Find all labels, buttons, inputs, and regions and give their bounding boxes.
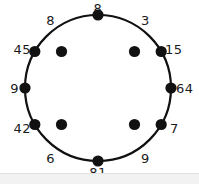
circle-node-dot[interactable] bbox=[129, 46, 140, 57]
circle-node-dot[interactable] bbox=[129, 119, 140, 130]
node-value-label: 9 bbox=[141, 151, 150, 166]
node-value-label: 3 bbox=[141, 13, 150, 28]
node-value-label: 15 bbox=[165, 42, 183, 57]
circle-node-dot[interactable] bbox=[156, 119, 167, 130]
node-value-label: 7 bbox=[170, 121, 179, 136]
circle-diagram-svg: 83156479816429458 bbox=[0, 0, 199, 184]
node-value-label: 8 bbox=[46, 13, 55, 28]
node-value-label: 45 bbox=[13, 42, 31, 57]
node-value-label: 42 bbox=[13, 121, 31, 136]
circle-diagram-canvas: 83156479816429458 bbox=[0, 0, 199, 184]
bottom-strip bbox=[0, 173, 199, 184]
circle-node-dot[interactable] bbox=[165, 82, 176, 93]
node-value-label: 8 bbox=[94, 1, 103, 16]
circle-node-dot[interactable] bbox=[19, 82, 30, 93]
circle-node-dot[interactable] bbox=[56, 46, 67, 57]
node-value-label: 64 bbox=[176, 81, 194, 96]
node-value-label: 6 bbox=[46, 151, 55, 166]
circle-node-dot[interactable] bbox=[56, 119, 67, 130]
node-value-label: 9 bbox=[10, 81, 19, 96]
